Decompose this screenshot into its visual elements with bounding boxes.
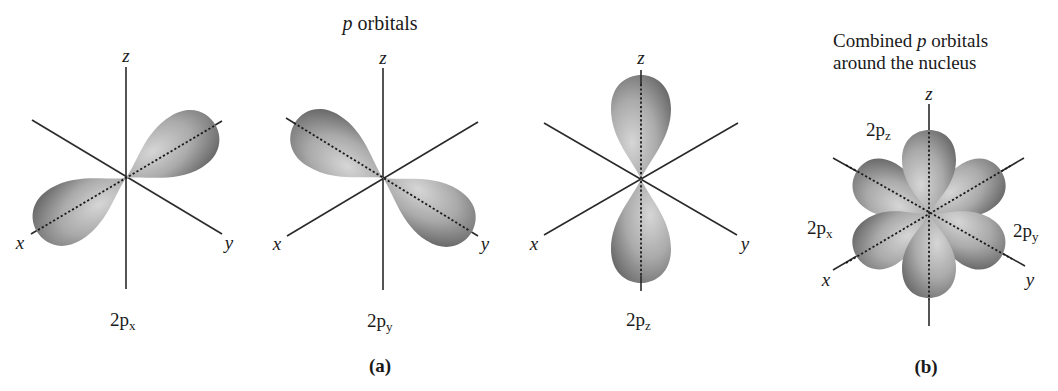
lobe-upper [279,97,399,203]
lobe-label-2py: 2py [1013,220,1039,244]
panel-b-title-line2: around the nucleus [833,52,977,73]
panel-b-title-line1: Combined p orbitals [833,30,988,51]
lobe-label-2px: 2px [807,217,833,241]
z-axis-label: z [121,45,130,66]
panel-b-caption: (b) [914,356,937,378]
x-axis-label: x [272,233,282,254]
x-axis-label: x [821,269,831,290]
lobe-lower [367,153,487,259]
orbital-label-2py: 2py [367,310,393,334]
x-axis-label: x [529,233,539,254]
p-orbitals-figure: z x y 2px p orbitals z x y 2py (a) [0,0,1058,391]
y-axis-label: y [1024,269,1035,290]
orbital-2pz: z x y 2pz [529,47,750,333]
orbital-label-2px: 2px [110,309,136,333]
z-axis-label: z [636,47,645,68]
orbital-2py: p orbitals z x y 2py (a) [272,12,490,377]
y-axis-label: y [223,232,234,253]
z-axis-label: z [924,83,933,104]
combined-orbitals: Combined p orbitals around the nucleus z… [807,30,1039,378]
y-axis-label: y [479,233,490,254]
x-axis-label: x [15,232,25,253]
panel-a-title: p orbitals [341,12,418,35]
orbital-label-2pz: 2pz [626,309,651,333]
z-axis-label: z [378,47,387,68]
y-axis-label: y [739,233,750,254]
lobe-label-2pz: 2pz [866,119,891,143]
panel-a-caption: (a) [369,355,391,377]
orbital-2px: z x y 2px [15,45,234,333]
